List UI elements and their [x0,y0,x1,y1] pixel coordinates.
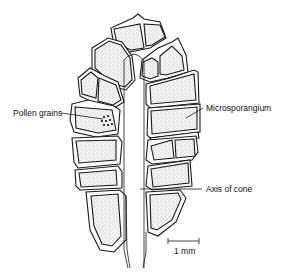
microsporangium-labeled [147,104,200,141]
axis-of-cone-label: Axis of cone [206,185,252,194]
scale-right-lower [146,136,198,190]
cone-section-diagram [0,0,284,272]
microsporangium-with-pollen [70,100,120,137]
scale-left-lower [72,136,122,190]
scale-bar [168,238,199,244]
scale-bottom [86,190,186,252]
microsporangium-label: Microsporangium [206,104,271,113]
pollen-grains-label: Pollen grains [13,109,62,118]
scale-bar-label: 1 mm [174,247,195,256]
